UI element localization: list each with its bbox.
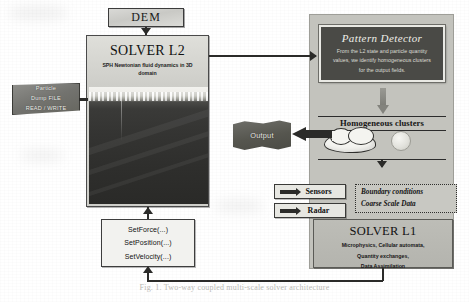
dem-box[interactable]: DEM (108, 8, 184, 27)
dem-label: DEM (131, 10, 161, 25)
radar-label: Radar (296, 206, 345, 215)
l1-feedback-horizontal (147, 280, 383, 282)
l1-feedback-arrow (143, 266, 153, 273)
scan-smudge (8, 6, 68, 20)
scan-smudge (214, 200, 264, 212)
pattern-detector-box[interactable]: Pattern Detector From the L2 state and p… (319, 25, 445, 82)
cluster-blob-shape (391, 131, 411, 151)
fluid-drip (121, 101, 122, 141)
particle-file-line-1: Particle (36, 84, 56, 94)
sensors-box[interactable]: Sensors (274, 184, 346, 199)
clusters-to-output-arrow (292, 127, 332, 140)
cloud-mask (332, 131, 370, 141)
scan-smudge (20, 150, 64, 161)
detector-to-clusters-arrow (377, 88, 389, 114)
arrow-head (292, 127, 306, 141)
particle-dump-file-box[interactable]: Particle Dump FILE READ / WRITE (12, 83, 80, 115)
api-call-item: SetForce(...) (128, 223, 168, 237)
solver-l2-subtitle: SPH Newtonian fluid dynamics in 3D domai… (87, 62, 208, 78)
clusters-top-rule (318, 116, 446, 117)
solver-l1-box[interactable]: SOLVER L1 Microphysics, Cellular automat… (313, 219, 453, 268)
radar-arrow-icon (280, 209, 296, 213)
api-call-item: SetPosition(...) (124, 236, 172, 250)
boundary-conditions-box[interactable]: Boundary conditions Coarse Scale Data (355, 184, 457, 213)
pattern-detector-body: From the L2 state and particle quantity … (321, 47, 443, 75)
output-label: Output (250, 131, 273, 140)
fluid-streak (89, 104, 208, 157)
arrow-head (377, 105, 389, 114)
solver-l1-title: SOLVER L1 (314, 224, 452, 239)
boundary-line-1: Boundary conditions (361, 187, 423, 199)
solver-l1-sub-2: Quantity exchanges, (314, 252, 452, 261)
clusters-label: Homogeneous clusters (316, 118, 448, 128)
pattern-detector-title: Pattern Detector (342, 32, 423, 44)
dem-to-solver-arrow (141, 28, 151, 35)
sensors-label: Sensors (296, 187, 345, 196)
l2-to-api-arrow (143, 207, 153, 214)
figure-caption: Fig. 1. Two-way coupled multi-scale solv… (0, 283, 469, 292)
api-call-item: SetVelocity(...) (125, 250, 172, 264)
diagram-canvas: DEM SOLVER L2 SPH Newtonian fluid dynami… (0, 0, 469, 302)
foam-layer (89, 92, 208, 101)
solver-l2-header: SOLVER L2 SPH Newtonian fluid dynamics i… (87, 36, 208, 87)
solver-l2-title: SOLVER L2 (87, 43, 208, 59)
particle-file-line-2: Dump FILE (31, 94, 61, 104)
solver-l2-box[interactable]: SOLVER L2 SPH Newtonian fluid dynamics i… (86, 35, 209, 207)
l2-to-detector-arrow (310, 51, 317, 61)
arrow-shaft (380, 88, 386, 106)
clusters-to-l1-arrow (377, 161, 387, 168)
fluid-simulation-image (89, 87, 208, 204)
output-flag[interactable]: Output (233, 120, 291, 150)
l2-to-detector-line (209, 55, 316, 57)
sensors-arrow-icon (280, 190, 296, 194)
api-calls-box[interactable]: SetForce(...) SetPosition(...) SetVeloci… (101, 219, 195, 267)
boundary-line-2: Coarse Scale Data (361, 199, 416, 211)
radar-box[interactable]: Radar (274, 203, 346, 218)
file-to-solver-line (79, 98, 88, 101)
solver-l1-sub-1: Microphysics, Cellular automata, (314, 241, 452, 250)
arrow-shaft (305, 130, 332, 138)
